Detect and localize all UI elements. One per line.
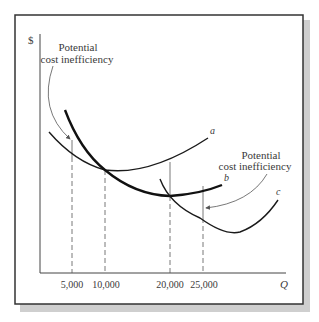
- x-tick-5000: 5,000: [61, 279, 84, 290]
- annotation-2-line2: cost inefficiency: [219, 160, 292, 172]
- annotation-1-line1: Potential: [58, 41, 97, 53]
- cost-curves-diagram: $ Q 5,000 10,000 20,000 25,000 a b c Pot…: [0, 0, 319, 322]
- y-axis-label: $: [28, 34, 34, 46]
- x-axis-label: Q: [280, 278, 288, 290]
- annotation-1-line2: cost inefficiency: [41, 53, 114, 65]
- curve-a-label: a: [210, 125, 215, 136]
- x-tick-20000: 20,000: [156, 279, 184, 290]
- x-tick-25000: 25,000: [190, 279, 218, 290]
- x-tick-10000: 10,000: [92, 279, 120, 290]
- curve-c-label: c: [276, 186, 281, 197]
- curve-b-label: b: [224, 172, 229, 183]
